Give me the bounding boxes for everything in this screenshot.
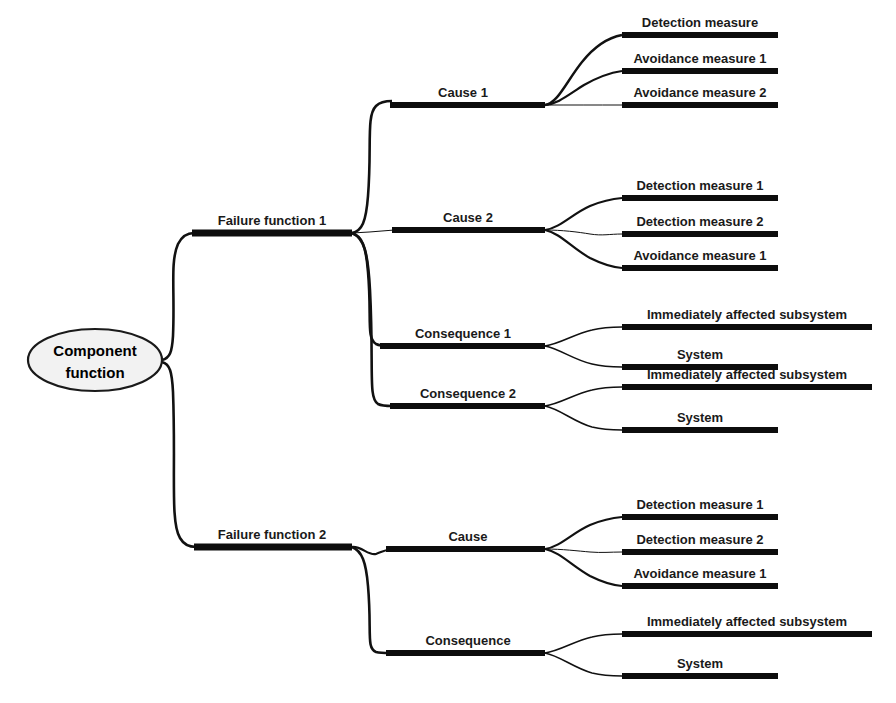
mindmap-canvas: Failure function 1 Cause 1 Detection mea…: [0, 0, 896, 703]
cause-1-branches: [545, 35, 622, 105]
root-label-line-2: function: [65, 364, 124, 381]
node-detection-measure-c1[interactable]: Detection measure: [622, 15, 778, 35]
root-node-component-function[interactable]: Component function: [28, 329, 162, 391]
node-label-detection-measure-1-ff2: Detection measure 1: [636, 497, 763, 512]
node-label-cause-1: Cause 1: [438, 85, 488, 100]
node-system-cons[interactable]: System: [622, 656, 778, 676]
node-subsystem-cons1[interactable]: Immediately affected subsystem: [622, 307, 872, 327]
node-label-consequence: Consequence: [425, 633, 510, 648]
branch-cons2-to-subsystem: [545, 387, 622, 406]
node-label-avoidance-measure-1-c2: Avoidance measure 1: [633, 248, 766, 263]
node-label-consequence-1: Consequence 1: [415, 326, 511, 341]
node-cause-1[interactable]: Cause 1: [390, 85, 545, 105]
branch-ff1-to-consequence2: [352, 233, 392, 406]
node-label-detection-measure-2: Detection measure 2: [636, 214, 763, 229]
node-label-system: System: [677, 347, 723, 362]
node-cause-2[interactable]: Cause 2: [392, 210, 545, 230]
node-detection-measure-1-c2[interactable]: Detection measure 1: [622, 178, 778, 198]
consequence-2-branches: [545, 387, 622, 430]
node-detection-measure-1-ff2[interactable]: Detection measure 1: [622, 497, 778, 517]
branch-cause-to-detection-measure-2: [545, 549, 622, 552]
node-consequence-2[interactable]: Consequence 2: [390, 386, 545, 406]
root-branches: [162, 233, 196, 547]
node-label-avoidance-measure-1-ff2: Avoidance measure 1: [633, 566, 766, 581]
node-label-immediately-affected-subsystem-2: Immediately affected subsystem: [647, 367, 847, 382]
node-consequence[interactable]: Consequence: [386, 633, 545, 653]
node-failure-function-2[interactable]: Failure function 2: [194, 527, 352, 547]
node-label-avoidance-measure-2: Avoidance measure 2: [633, 85, 766, 100]
branch-ff2-to-consequence: [352, 547, 390, 653]
node-label-cause-2: Cause 2: [443, 210, 493, 225]
node-label-immediately-affected-subsystem: Immediately affected subsystem: [647, 307, 847, 322]
branch-cause1-to-avoidance-measure-1: [545, 71, 622, 105]
consequence-1-branches: [545, 327, 622, 367]
node-label-consequence-2: Consequence 2: [420, 386, 516, 401]
branch-cause2-to-detection-measure-1: [545, 198, 622, 230]
branch-root-to-ff1: [162, 233, 194, 360]
branch-cause-to-detection-measure-1: [545, 517, 622, 549]
root-label-line-1: Component: [53, 342, 136, 359]
node-label-detection-measure: Detection measure: [642, 15, 758, 30]
branch-root-to-ff2: [162, 362, 196, 547]
node-subsystem-cons[interactable]: Immediately affected subsystem: [622, 614, 872, 634]
node-cause[interactable]: Cause: [386, 529, 545, 549]
mindmap-diagram: Failure function 1 Cause 1 Detection mea…: [0, 0, 896, 703]
node-label-system-2: System: [677, 410, 723, 425]
branch-cons1-to-subsystem: [545, 327, 622, 346]
branch-cause2-to-avoidance-measure-1: [545, 230, 622, 268]
branch-cause1-to-detection-measure: [545, 35, 622, 105]
branch-cause-to-avoidance-measure-1: [545, 549, 622, 586]
node-subsystem-cons2[interactable]: Immediately affected subsystem: [622, 367, 872, 387]
branch-cons2-to-system: [545, 406, 622, 430]
node-label-system-3: System: [677, 656, 723, 671]
failure-function-1-branches: [352, 101, 394, 406]
node-avoidance-measure-2-c1[interactable]: Avoidance measure 2: [622, 85, 778, 105]
node-detection-measure-2-c2[interactable]: Detection measure 2: [622, 214, 778, 234]
branch-cons1-to-system: [545, 346, 622, 367]
branch-cons-to-subsystem: [545, 634, 622, 653]
branch-ff1-to-cause1: [352, 101, 392, 233]
node-avoidance-measure-1-c1[interactable]: Avoidance measure 1: [622, 51, 778, 71]
failure-function-2-branches: [352, 547, 392, 653]
node-label-detection-measure-1: Detection measure 1: [636, 178, 763, 193]
cause-2-branches: [545, 198, 622, 268]
consequence-branches: [545, 634, 622, 676]
node-avoidance-measure-1-ff2[interactable]: Avoidance measure 1: [622, 566, 778, 586]
node-label-avoidance-measure-1: Avoidance measure 1: [633, 51, 766, 66]
node-system-cons1[interactable]: System: [622, 347, 778, 367]
cause-branches: [545, 517, 622, 586]
branch-cons-to-system: [545, 653, 622, 676]
node-system-cons2[interactable]: System: [622, 410, 778, 430]
node-label-immediately-affected-subsystem-3: Immediately affected subsystem: [647, 614, 847, 629]
root-ellipse: [28, 329, 162, 391]
node-label-cause: Cause: [448, 529, 487, 544]
node-detection-measure-2-ff2[interactable]: Detection measure 2: [622, 532, 778, 552]
node-consequence-1[interactable]: Consequence 1: [380, 326, 545, 346]
node-label-failure-function-2: Failure function 2: [218, 527, 326, 542]
node-failure-function-1[interactable]: Failure function 1: [192, 213, 352, 233]
node-label-failure-function-1: Failure function 1: [218, 213, 326, 228]
node-label-detection-measure-2-ff2: Detection measure 2: [636, 532, 763, 547]
node-avoidance-measure-1-c2[interactable]: Avoidance measure 1: [622, 248, 778, 268]
